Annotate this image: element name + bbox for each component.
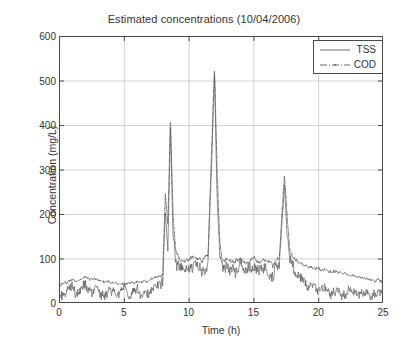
series-marker-dot bbox=[117, 284, 118, 285]
series-marker-dot bbox=[183, 261, 184, 262]
legend-label-tss: TSS bbox=[352, 44, 378, 55]
y-axis-title-holder: Concentration (mg/L) bbox=[14, 36, 28, 303]
series-marker-dot bbox=[300, 262, 301, 263]
series-marker-dot bbox=[89, 279, 90, 280]
series-marker-dot bbox=[127, 283, 128, 284]
series-marker-dot bbox=[84, 276, 85, 277]
x-tick-label: 5 bbox=[109, 307, 139, 318]
series-marker-dot bbox=[160, 276, 161, 277]
series-marker-dot bbox=[146, 281, 147, 282]
series-marker-dot bbox=[178, 258, 179, 259]
plot-border bbox=[60, 37, 383, 303]
series-marker-dot bbox=[239, 258, 240, 259]
series-marker-dot bbox=[357, 277, 358, 278]
x-tick-label: 10 bbox=[174, 307, 204, 318]
series-marker-dot bbox=[235, 262, 236, 263]
series-marker-dot bbox=[376, 280, 377, 281]
chart-figure: Estimated concentrations (10/04/2006) 01… bbox=[0, 0, 408, 351]
series-marker-dot bbox=[277, 257, 278, 258]
x-axis-title: Time (h) bbox=[59, 324, 383, 336]
series-marker-dot bbox=[155, 277, 156, 278]
series-marker-dot bbox=[282, 208, 283, 209]
series-marker-dot bbox=[347, 274, 348, 275]
axis-ticks bbox=[59, 36, 383, 303]
series-marker-dot bbox=[305, 265, 306, 266]
series-marker-dot bbox=[164, 208, 165, 209]
series-marker-dot bbox=[272, 267, 273, 268]
series-marker-dot bbox=[310, 266, 311, 267]
series-marker-dot bbox=[197, 259, 198, 260]
series-marker-dot bbox=[70, 280, 71, 281]
series-line-tss bbox=[59, 75, 383, 300]
series-marker-dot bbox=[150, 279, 151, 280]
series-marker-dot bbox=[324, 268, 325, 269]
series-marker-dot bbox=[61, 283, 62, 284]
series-marker-dot bbox=[362, 277, 363, 278]
x-tick-label: 0 bbox=[44, 307, 74, 318]
legend-swatch-solid-icon bbox=[318, 44, 352, 56]
series-marker-dot bbox=[329, 272, 330, 273]
series-marker-dot bbox=[202, 262, 203, 263]
series-marker-dot bbox=[192, 256, 193, 257]
series-marker-dot bbox=[211, 144, 212, 145]
series-marker-dot bbox=[291, 253, 292, 254]
series-marker-dot bbox=[122, 283, 123, 284]
plot-svg bbox=[59, 36, 383, 303]
x-tick-label: 25 bbox=[368, 307, 398, 318]
y-axis-title: Concentration (mg/L) bbox=[46, 75, 58, 275]
series-marker-dot bbox=[207, 255, 208, 256]
series-marker-dot bbox=[254, 257, 255, 258]
series-marker-dot bbox=[169, 153, 170, 154]
series-marker-dot bbox=[352, 274, 353, 275]
series-lines bbox=[59, 71, 383, 300]
plot-area bbox=[59, 36, 383, 303]
series-marker-dot bbox=[263, 258, 264, 259]
series-marker-dot bbox=[131, 282, 132, 283]
series-marker-dot bbox=[80, 279, 81, 280]
chart-legend: TSS COD bbox=[313, 40, 383, 74]
series-marker-dot bbox=[380, 280, 381, 281]
series-marker-dot bbox=[108, 280, 109, 281]
series-marker-dot bbox=[244, 262, 245, 263]
series-marker-dot bbox=[230, 261, 231, 262]
series-line-cod bbox=[59, 71, 383, 287]
gridlines bbox=[59, 36, 383, 303]
x-tick-label: 15 bbox=[238, 307, 268, 318]
series-marker-dot bbox=[66, 283, 67, 284]
series-marker-dot bbox=[99, 280, 100, 281]
series-marker-dot bbox=[174, 232, 175, 233]
series-marker-dot bbox=[136, 282, 137, 283]
series-marker-dot bbox=[371, 280, 372, 281]
series-marker-dot bbox=[75, 281, 76, 282]
series-marker-dot bbox=[188, 260, 189, 261]
series-marker-dot bbox=[338, 272, 339, 273]
series-marker-dot bbox=[319, 269, 320, 270]
series-marker-dot bbox=[343, 273, 344, 274]
series-marker-dot bbox=[315, 268, 316, 269]
series-marker-dot bbox=[94, 278, 95, 279]
x-axis-tick-labels: 0510152025 bbox=[59, 306, 383, 322]
series-marker-dot bbox=[258, 262, 259, 263]
series-marker-dot bbox=[268, 262, 269, 263]
legend-swatch-dashdot-icon bbox=[318, 59, 352, 71]
x-tick-label: 20 bbox=[303, 307, 333, 318]
series-marker-dot bbox=[103, 282, 104, 283]
series-marker-dot bbox=[216, 146, 217, 147]
series-marker-dot bbox=[113, 283, 114, 284]
series-marker-dot bbox=[296, 259, 297, 260]
legend-item-cod: COD bbox=[314, 57, 382, 72]
series-marker-dot bbox=[286, 213, 287, 214]
series-marker-dot bbox=[221, 253, 222, 254]
chart-title: Estimated concentrations (10/04/2006) bbox=[0, 13, 408, 25]
series-marker-dot bbox=[366, 277, 367, 278]
legend-item-tss: TSS bbox=[314, 42, 382, 57]
series-marker-dot bbox=[141, 282, 142, 283]
legend-label-cod: COD bbox=[352, 59, 378, 70]
series-marker-dot bbox=[249, 261, 250, 262]
series-marker-dot bbox=[333, 270, 334, 271]
series-marker-dot bbox=[225, 258, 226, 259]
